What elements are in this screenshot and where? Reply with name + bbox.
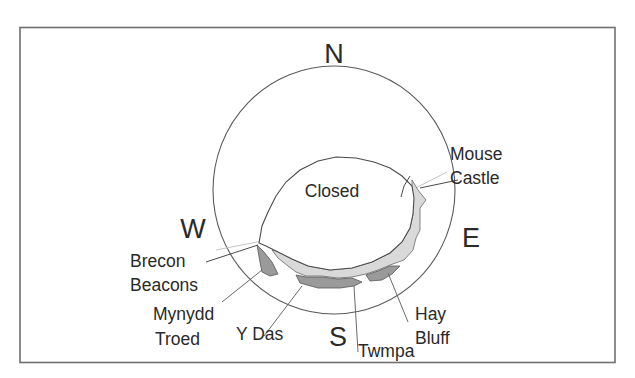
site-label-y-das: Y Das (236, 324, 284, 344)
west-label: W (180, 214, 206, 244)
east-label: E (462, 223, 480, 253)
site-label-line: Hay (415, 304, 446, 324)
site-label-line: Castle (450, 168, 500, 188)
site-label-line: Y Das (236, 324, 284, 344)
site-label-line: Twmpa (358, 341, 415, 361)
site-label-line: Mynydd (153, 304, 214, 324)
site-label-line: Brecon (130, 251, 185, 271)
north-label: N (324, 39, 344, 69)
site-label-line: Bluff (415, 328, 450, 348)
site-label-twmpa: Twmpa (358, 341, 415, 361)
site-label-line: Beacons (130, 275, 198, 295)
closed-label: Closed (305, 181, 359, 201)
south-label: S (329, 322, 347, 352)
site-label-line: Troed (155, 329, 200, 349)
site-label-line: Mouse (450, 144, 503, 164)
horizon-diagram: N W E S Closed Mouse Castle Brecon Beaco… (0, 0, 635, 378)
